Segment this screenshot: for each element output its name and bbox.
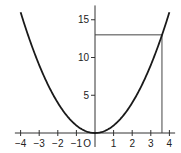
guide-lines — [95, 35, 162, 133]
x-tick-label: −1 — [71, 138, 83, 149]
x-tick-label: 4 — [167, 138, 173, 149]
origin-label: O — [83, 138, 91, 149]
x-tick-label: 1 — [111, 138, 117, 149]
x-tick-label: 3 — [148, 138, 154, 149]
parabola-chart: −4−3−2−1123451015O — [0, 0, 181, 153]
axes — [15, 5, 175, 147]
x-tick-label: −4 — [15, 138, 27, 149]
x-tick-label: −3 — [33, 138, 45, 149]
y-tick-label: 5 — [83, 90, 89, 101]
y-tick-label: 15 — [78, 14, 90, 25]
x-tick-label: 2 — [129, 138, 135, 149]
x-tick-label: −2 — [52, 138, 64, 149]
y-tick-label: 10 — [78, 52, 90, 63]
